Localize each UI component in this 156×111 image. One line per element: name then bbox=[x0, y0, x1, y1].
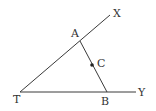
label-X: X bbox=[113, 7, 121, 20]
label-T: T bbox=[13, 93, 21, 106]
point-C-dot bbox=[90, 63, 94, 67]
label-C: C bbox=[97, 57, 105, 70]
label-Y: Y bbox=[137, 86, 146, 99]
geometry-diagram: T X Y A B C bbox=[0, 0, 156, 111]
label-B: B bbox=[101, 95, 109, 108]
label-A: A bbox=[70, 27, 80, 40]
ray-TX bbox=[20, 15, 110, 92]
